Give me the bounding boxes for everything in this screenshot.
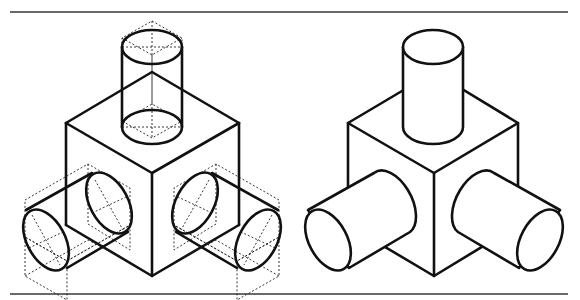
left-cylinder-finished xyxy=(296,170,416,278)
figure: Construction view with dashed bounding b… xyxy=(0,0,580,300)
right-cylinder-finished xyxy=(452,170,572,278)
right-cylinder xyxy=(163,165,291,278)
left-cylinder xyxy=(14,165,142,278)
finished-panel xyxy=(296,30,573,278)
construction-panel xyxy=(14,21,291,300)
top-cylinder-finished xyxy=(403,30,463,144)
isometric-drawing xyxy=(0,0,580,300)
top-cylinder-construction xyxy=(122,21,182,138)
